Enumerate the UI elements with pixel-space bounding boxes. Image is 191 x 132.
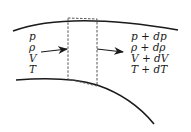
- flow-diagram: p ρ V T p + dp ρ + dρ V + dV T + dT: [0, 0, 191, 132]
- inflow-arrow: [41, 49, 67, 52]
- lower-wall: [16, 79, 154, 124]
- control-volume: [68, 18, 97, 86]
- outlet-label-temperature: T + dT: [131, 63, 168, 75]
- outflow-arrow: [97, 49, 123, 52]
- inlet-label-temperature: T: [29, 63, 37, 75]
